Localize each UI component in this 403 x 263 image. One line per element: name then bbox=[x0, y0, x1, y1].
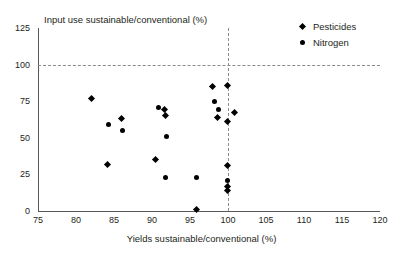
y-tick-0: 0 bbox=[25, 206, 30, 216]
data-point-nitrogen bbox=[163, 175, 168, 180]
data-point-pesticides bbox=[118, 115, 125, 122]
circle-marker-icon bbox=[296, 40, 308, 45]
x-tick-105: 105 bbox=[258, 215, 273, 225]
data-point-pesticides bbox=[104, 161, 111, 168]
data-point-nitrogen bbox=[106, 122, 111, 127]
data-point-nitrogen bbox=[164, 134, 169, 139]
y-tick-25: 25 bbox=[20, 169, 30, 179]
legend-item-pesticides[interactable]: Pesticides bbox=[296, 18, 356, 34]
data-point-pesticides bbox=[224, 162, 231, 169]
data-point-nitrogen bbox=[120, 128, 125, 133]
x-tick-100: 100 bbox=[220, 215, 235, 225]
x-axis-line bbox=[38, 211, 380, 212]
legend-label: Pesticides bbox=[313, 21, 356, 32]
data-point-nitrogen bbox=[156, 105, 161, 110]
data-point-pesticides bbox=[193, 206, 200, 213]
reference-line-y-100 bbox=[38, 65, 380, 66]
data-point-nitrogen bbox=[216, 107, 221, 112]
data-point-pesticides bbox=[162, 112, 169, 119]
data-point-pesticides bbox=[88, 95, 95, 102]
y-tick-125: 125 bbox=[15, 23, 30, 33]
legend-label: Nitrogen bbox=[313, 37, 349, 48]
data-point-nitrogen bbox=[212, 99, 217, 104]
y-tick-100: 100 bbox=[15, 60, 30, 70]
x-tick-115: 115 bbox=[335, 215, 349, 225]
chart-legend: PesticidesNitrogen bbox=[296, 18, 356, 50]
x-tick-85: 85 bbox=[109, 215, 119, 225]
x-tick-80: 80 bbox=[71, 215, 81, 225]
data-point-pesticides bbox=[209, 83, 216, 90]
diamond-marker-icon bbox=[296, 24, 308, 29]
data-point-pesticides bbox=[224, 118, 231, 125]
x-tick-95: 95 bbox=[185, 215, 195, 225]
x-tick-110: 110 bbox=[297, 215, 311, 225]
data-point-nitrogen bbox=[225, 178, 230, 183]
x-tick-90: 90 bbox=[147, 215, 157, 225]
y-tick-75: 75 bbox=[20, 96, 30, 106]
x-axis-title: Yields sustainable/conventional (%) bbox=[0, 233, 403, 244]
plot-area bbox=[38, 28, 380, 211]
data-point-pesticides bbox=[214, 114, 221, 121]
data-point-pesticides bbox=[224, 187, 231, 194]
data-point-pesticides bbox=[151, 156, 158, 163]
y-axis-title: Input use sustainable/conventional (%) bbox=[44, 14, 207, 25]
data-point-pesticides bbox=[224, 82, 231, 89]
data-point-pesticides bbox=[231, 109, 238, 116]
scatter-chart-figure: Input use sustainable/conventional (%) Y… bbox=[0, 0, 403, 263]
x-tick-75: 75 bbox=[33, 215, 43, 225]
y-tick-50: 50 bbox=[20, 133, 30, 143]
data-point-nitrogen bbox=[194, 175, 199, 180]
legend-item-nitrogen[interactable]: Nitrogen bbox=[296, 34, 356, 50]
x-tick-120: 120 bbox=[372, 215, 387, 225]
